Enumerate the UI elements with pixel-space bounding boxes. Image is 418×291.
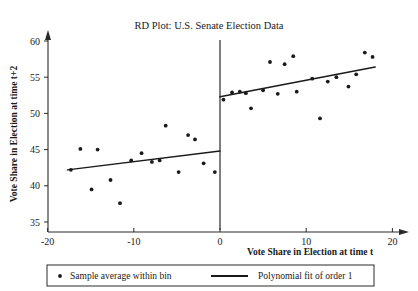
chart-title: RD Plot: U.S. Senate Election Data: [134, 20, 283, 31]
data-point: [109, 178, 113, 182]
data-point: [140, 151, 144, 155]
data-point: [371, 55, 375, 59]
data-point: [118, 201, 122, 205]
data-point: [202, 161, 206, 165]
y-axis: [45, 30, 51, 232]
data-point: [164, 124, 168, 128]
y-tick-label: 60: [30, 36, 40, 47]
data-point: [354, 72, 358, 76]
x-axis-title: Vote Share in Election at time t: [247, 247, 374, 257]
data-point: [249, 106, 253, 110]
data-point: [318, 117, 322, 121]
y-axis-title: Vote Share in Election at time t+2: [9, 66, 19, 203]
data-point: [96, 148, 100, 152]
x-axis-ticks: -20-1001020: [41, 228, 397, 247]
data-point: [347, 85, 351, 89]
data-point: [363, 51, 367, 55]
data-point: [90, 188, 94, 192]
x-tick-label: -10: [127, 236, 140, 247]
x-axis: [48, 229, 409, 235]
data-point: [158, 159, 162, 163]
x-tick-label: -20: [41, 236, 54, 247]
x-tick-label: 20: [387, 236, 397, 247]
data-point: [150, 160, 154, 164]
polynomial-fit-left: [67, 151, 220, 170]
x-tick-label: 0: [218, 236, 223, 247]
rd-plot-figure: RD Plot: U.S. Senate Election Data 35404…: [0, 0, 418, 291]
data-point: [193, 138, 197, 142]
data-point: [276, 92, 280, 96]
data-point: [261, 88, 265, 92]
legend: Sample average within bin Polynomial fit…: [47, 265, 374, 286]
data-point: [283, 62, 287, 66]
y-tick-label: 55: [30, 72, 40, 83]
data-point: [244, 91, 248, 95]
legend-label-polynomial-fit: Polynomial fit of order 1: [258, 271, 353, 281]
data-point: [222, 98, 226, 102]
data-point: [334, 75, 338, 79]
y-tick-label: 35: [30, 217, 40, 228]
legend-marker-dot-icon: [58, 274, 62, 278]
scatter-points-left: [69, 124, 217, 205]
data-point: [238, 90, 242, 94]
scatter-points-right: [222, 51, 375, 121]
data-point: [129, 159, 133, 163]
data-point: [177, 170, 181, 174]
data-point: [69, 168, 73, 172]
y-axis-ticks: 354045505560: [30, 36, 48, 228]
data-point: [295, 90, 299, 94]
chart-canvas: RD Plot: U.S. Senate Election Data 35404…: [0, 0, 418, 291]
y-tick-label: 40: [30, 180, 40, 191]
data-point: [310, 77, 314, 81]
data-point: [230, 91, 234, 95]
x-tick-label: 10: [301, 236, 311, 247]
data-point: [213, 170, 217, 174]
data-point: [78, 147, 82, 151]
data-point: [291, 54, 295, 58]
data-point: [268, 60, 272, 64]
y-tick-label: 45: [30, 144, 40, 155]
data-point: [186, 133, 190, 137]
data-point: [326, 80, 330, 84]
y-tick-label: 50: [30, 108, 40, 119]
legend-label-sample-average: Sample average within bin: [70, 271, 172, 281]
